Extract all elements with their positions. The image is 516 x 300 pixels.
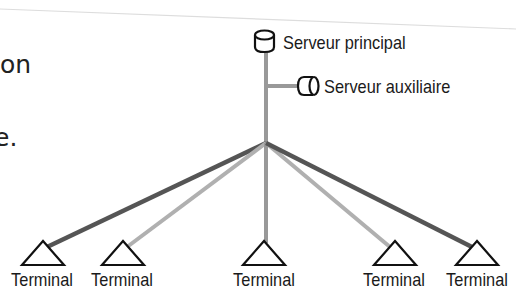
primary-server-label: Serveur principal xyxy=(283,33,406,52)
terminal-link-2 xyxy=(127,143,266,247)
terminal-label-5: Terminal xyxy=(446,270,508,289)
horizontal-cylinder-icon xyxy=(298,77,319,95)
terminal-triangle-icon xyxy=(22,241,64,265)
database-cylinder-icon xyxy=(255,31,274,53)
network-diagram xyxy=(0,0,516,300)
auxiliary-server-label: Serveur auxiliaire xyxy=(324,77,450,96)
terminal-label-3: Terminal xyxy=(233,270,295,289)
terminal-label-2: Terminal xyxy=(91,270,153,289)
terminal-label-4: Terminal xyxy=(363,270,425,289)
terminal-triangle-icon xyxy=(102,241,144,265)
terminal-triangle-icon xyxy=(243,241,285,265)
terminal-link-1 xyxy=(47,143,266,247)
terminal-label-1: Terminal xyxy=(11,270,73,289)
terminal-triangle-icon xyxy=(374,241,416,265)
